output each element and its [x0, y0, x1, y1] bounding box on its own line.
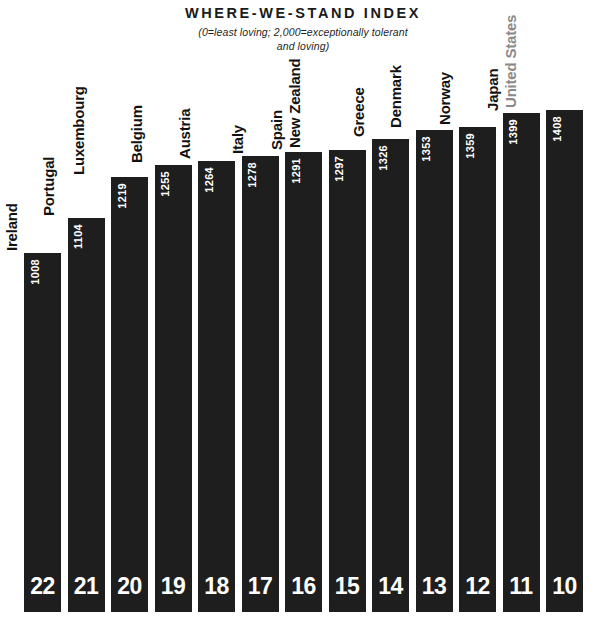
bar-rank-label: 10 [546, 575, 583, 598]
bar-category-text: Portugal [41, 157, 56, 216]
bar-group: 121920Luxembourg [111, 177, 148, 612]
bar-rank-label: 22 [24, 575, 61, 598]
bar-category-text: Denmark [388, 65, 403, 128]
bar-value-label: 1008 [30, 259, 41, 285]
bar: 110421 [68, 218, 105, 612]
bar-rank-label: 20 [111, 575, 148, 598]
bar-category-text: Greece [351, 87, 366, 137]
bar-group: 139911Japan [503, 113, 540, 612]
bar-value-label: 1297 [334, 156, 345, 182]
bar-group: 126418Austria [198, 161, 235, 612]
bar-category-text: Ireland [4, 203, 19, 251]
bar-rank-label: 11 [503, 575, 540, 598]
bar-value-label: 1255 [160, 171, 171, 197]
bar-value-label: 1291 [291, 158, 302, 184]
bar-value-label: 1264 [204, 167, 215, 193]
bar: 132614 [372, 139, 409, 612]
bar-value-label: 1219 [117, 183, 128, 209]
bar: 126418 [198, 161, 235, 612]
bar-group: 129116Spain [285, 152, 322, 612]
bar-rank-label: 13 [416, 575, 453, 598]
bar-group: 125519Belgium [155, 165, 192, 612]
bar-category-text: Norway [436, 72, 451, 125]
bar: 129715 [329, 150, 366, 612]
bar: 135912 [459, 127, 496, 612]
bar-group: 135912Norway [459, 127, 496, 612]
bar-rank-label: 19 [155, 575, 192, 598]
bar-value-label: 1326 [378, 145, 389, 171]
bar-category-text: Belgium [129, 105, 144, 163]
bar-value-label: 1104 [73, 224, 84, 249]
bar-group: 110421Portugal [68, 218, 105, 612]
bar-group: 129715New Zealand [329, 150, 366, 612]
bar: 139911 [503, 113, 540, 612]
bar: 125519 [155, 165, 192, 612]
bar: 129116 [285, 152, 322, 612]
bar: 121920 [111, 177, 148, 612]
bar-rank-label: 12 [459, 575, 496, 598]
bar-rank-label: 18 [198, 575, 235, 598]
bar-category-text: Italy [230, 125, 245, 154]
bar-group: 140810United States [546, 110, 583, 612]
bar-category-text: Luxembourg [70, 86, 85, 175]
bar-category-text: New Zealand [287, 59, 302, 149]
bar: 135313 [416, 130, 453, 612]
bar-rank-label: 21 [68, 575, 105, 598]
bar-value-label: 1359 [465, 133, 476, 159]
bar-category-text: United States [503, 15, 518, 108]
bar-value-label: 1353 [421, 136, 432, 162]
bar: 100822 [24, 253, 61, 612]
bar-rank-label: 15 [329, 575, 366, 598]
chart-plot-area: 100822Ireland110421Portugal121920Luxembo… [0, 0, 606, 641]
bar: 140810 [546, 110, 583, 612]
bar-rank-label: 17 [242, 575, 279, 598]
bar-group: 100822Ireland [24, 253, 61, 612]
bar-group: 127817Italy [242, 156, 279, 612]
bar-category-text: Spain [269, 110, 284, 150]
bar-category-text: Austria [176, 109, 191, 159]
bar-value-label: 1278 [247, 162, 258, 188]
where-we-stand-index-chart: WHERE-WE-STAND INDEX (0=least loving; 2,… [0, 0, 606, 641]
bar-value-label: 1399 [508, 119, 519, 145]
bar-category-text: Japan [485, 69, 500, 111]
bar-group: 132614Greece [372, 139, 409, 612]
bar: 127817 [242, 156, 279, 612]
bar-rank-label: 16 [285, 575, 322, 598]
bar-rank-label: 14 [372, 575, 409, 598]
bar-group: 135313Denmark [416, 130, 453, 612]
bar-value-label: 1408 [552, 116, 563, 142]
